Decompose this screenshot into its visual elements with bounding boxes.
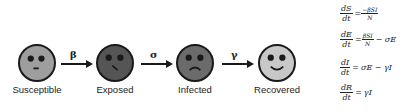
arrow-e-to-i <box>141 63 167 65</box>
recovered-face-icon <box>258 44 296 82</box>
infected-face-icon <box>176 44 214 82</box>
recovered-label: Recovered <box>242 84 312 95</box>
exposed-label: Exposed <box>80 84 150 95</box>
infected-label: Infected <box>160 84 230 95</box>
gamma-label: γ <box>231 49 238 60</box>
equation-dr-dt: dRdt = γI <box>340 83 372 102</box>
arrow-i-to-r <box>222 63 248 65</box>
susceptible-face-icon <box>18 44 56 82</box>
arrow-s-to-e <box>61 63 87 65</box>
equation-ds-dt: dSdt = −βSIN <box>340 4 378 23</box>
equation-di-dt: dIdt = σE − γI <box>340 58 392 77</box>
beta-label: β <box>70 49 77 60</box>
sigma-label: σ <box>150 49 157 60</box>
equation-de-dt: dEdt = βSIN − σE <box>340 30 396 49</box>
exposed-face-icon <box>96 44 134 82</box>
susceptible-label: Susceptible <box>2 84 72 95</box>
